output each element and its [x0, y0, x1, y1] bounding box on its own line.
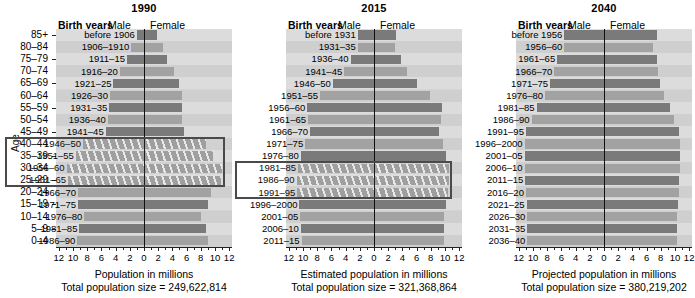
bar-male	[298, 164, 374, 173]
x-axis-tick	[303, 247, 304, 251]
x-axis-tick	[229, 247, 230, 251]
x-axis-tick	[618, 247, 619, 251]
x-axis-tick	[388, 247, 389, 251]
x-axis-minor-tick	[80, 247, 81, 250]
birth-year-label: 1951–55	[281, 91, 318, 101]
bar-male	[297, 188, 374, 197]
bar-female	[374, 30, 396, 39]
birth-year-label: 1966–70	[515, 67, 552, 77]
bar-female	[374, 164, 449, 173]
bar-male	[307, 103, 374, 112]
x-axis-tick	[519, 247, 520, 251]
bar-female	[604, 103, 670, 112]
bar-male	[564, 43, 604, 52]
bar-female	[144, 224, 206, 233]
bar-female	[374, 43, 395, 52]
x-axis-tick	[215, 247, 216, 251]
total-population-label: Total population size = 249,622,814	[56, 281, 232, 293]
age-group-label: 80–84	[20, 42, 48, 52]
bar-male	[527, 224, 604, 233]
x-axis-minor-tick	[554, 247, 555, 250]
bar-female	[604, 164, 680, 173]
birth-year-label: 1981–85	[498, 103, 535, 113]
x-axis-tick	[360, 247, 361, 251]
bar-male	[78, 200, 144, 209]
birth-year-label: 1986–90	[493, 115, 530, 125]
bar-male	[525, 151, 604, 160]
birth-year-label: 2011–15	[263, 236, 299, 246]
x-axis-tick	[87, 247, 88, 251]
bar-female	[374, 139, 443, 148]
x-axis-minor-tick	[310, 247, 311, 250]
birth-year-label: 2026–30	[488, 212, 525, 222]
bar-male	[320, 91, 374, 100]
x-axis-minor-tick	[208, 247, 209, 250]
bar-female	[604, 91, 664, 100]
bar-female	[374, 103, 442, 112]
x-axis-minor-tick	[654, 247, 655, 250]
bar-female	[144, 79, 179, 88]
bar-female	[604, 43, 653, 52]
age-group-label: 70–74	[20, 66, 48, 76]
x-axis-minor-tick	[381, 247, 382, 250]
x-axis-tick	[689, 247, 690, 251]
x-axis-tick	[59, 247, 60, 251]
x-axis-minor-tick	[151, 247, 152, 250]
x-axis-tick	[632, 247, 633, 251]
x-axis-title: Projected population in millions	[516, 268, 692, 280]
birth-year-label: 2031–35	[488, 224, 525, 234]
bar-male	[83, 139, 144, 148]
bar-female	[374, 55, 401, 64]
x-axis-title: Estimated population in millions	[286, 268, 462, 280]
x-axis-tick	[547, 247, 548, 251]
x-axis-minor-tick	[109, 247, 110, 250]
birth-year-label: before 1956	[512, 30, 563, 40]
bar-female	[374, 200, 446, 209]
bar-male	[545, 91, 604, 100]
birth-year-label: 1961–65	[29, 175, 66, 185]
birth-year-label: 1936–40	[312, 54, 349, 64]
bar-female	[604, 127, 679, 136]
x-axis-minor-tick	[452, 247, 453, 250]
bar-male	[300, 212, 374, 221]
bar-female	[144, 200, 208, 209]
birth-year-label: 1906–1910	[82, 42, 130, 52]
bar-male	[137, 30, 144, 39]
x-axis-minor-tick	[339, 247, 340, 250]
bar-male	[526, 188, 604, 197]
pyramid-panel-2015: 2015Birth yearsMaleFemalebefore 19311931…	[286, 0, 462, 298]
x-axis-tick	[661, 247, 662, 251]
bar-female	[604, 176, 679, 185]
x-axis-title: Population in millions	[56, 268, 232, 280]
birth-year-label: 1966–70	[271, 127, 308, 137]
birth-year-label: 1971–75	[39, 200, 76, 210]
x-axis-minor-tick	[296, 247, 297, 250]
plot-area	[56, 29, 232, 247]
birth-year-label: 1911–15	[89, 54, 125, 64]
bar-male	[525, 164, 604, 173]
x-axis-tick	[561, 247, 562, 251]
bar-male	[84, 212, 144, 221]
x-axis-tick	[73, 247, 74, 251]
bar-female	[374, 176, 449, 185]
x-axis-tick	[374, 247, 375, 251]
x-axis-tick	[576, 247, 577, 251]
x-axis-tick	[533, 247, 534, 251]
bar-male	[358, 43, 374, 52]
bar-male	[67, 164, 144, 173]
birth-year-label: 1951–55	[37, 151, 74, 161]
birth-year-label: 1996–2000	[475, 139, 523, 149]
x-axis-minor-tick	[611, 247, 612, 250]
bar-female	[374, 212, 444, 221]
x-axis-minor-tick	[123, 247, 124, 250]
bar-female	[374, 91, 430, 100]
bar-female	[144, 43, 163, 52]
birth-year-label: 1921–25	[75, 79, 112, 89]
x-axis-tick	[130, 247, 131, 251]
bar-female	[374, 79, 417, 88]
birth-year-label: 1926–30	[71, 91, 108, 101]
x-axis-minor-tick	[66, 247, 67, 250]
bar-male	[310, 127, 374, 136]
birth-year-label: 2006–10	[262, 224, 299, 234]
bar-male	[302, 236, 374, 245]
